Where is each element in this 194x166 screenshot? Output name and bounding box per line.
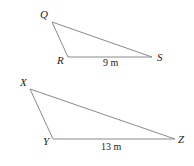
vertex-label-y: Y: [43, 135, 51, 147]
vertex-label-s: S: [157, 51, 163, 63]
side-length-rs: 9 m: [103, 57, 119, 68]
similar-triangles-diagram: Q R S 9 m X Y Z 13 m: [0, 0, 194, 166]
triangle-qrs-outline: [52, 22, 152, 57]
triangle-xyz-outline: [30, 89, 175, 139]
triangle-qrs: Q R S 9 m: [40, 8, 163, 68]
vertex-label-r: R: [56, 54, 64, 66]
side-length-yz: 13 m: [101, 141, 122, 152]
triangle-xyz: X Y Z 13 m: [19, 76, 185, 152]
vertex-label-q: Q: [40, 8, 48, 20]
vertex-label-x: X: [19, 76, 28, 88]
vertex-label-z: Z: [178, 133, 185, 145]
